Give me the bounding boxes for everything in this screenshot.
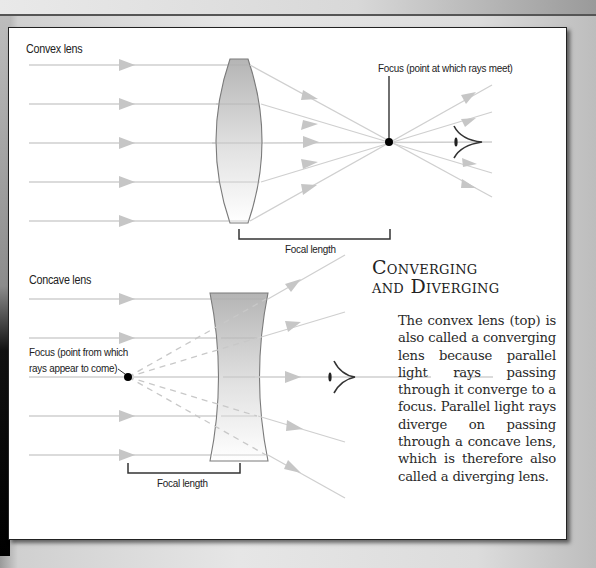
convex-focus-dot xyxy=(385,138,393,146)
sidebar-body-text: The convex lens (top) is also called a c… xyxy=(398,312,556,485)
concave-lens-title: Concave lens xyxy=(29,273,91,287)
convex-lens-title: Convex lens xyxy=(26,42,82,56)
concave-refracted-arrows xyxy=(284,279,303,473)
convex-incoming-arrows xyxy=(119,59,135,227)
convex-focal-length-bracket xyxy=(239,229,390,239)
concave-focal-length-label: Focal length xyxy=(157,477,208,489)
concave-focus-label: Focus (point from which rays appear to c… xyxy=(29,344,128,376)
concave-focal-length-bracket xyxy=(128,463,240,473)
convex-focus-label: Focus (point at which rays meet) xyxy=(378,62,513,74)
convex-focal-length-label: Focal length xyxy=(285,243,336,255)
page-top-band xyxy=(0,0,596,16)
convex-lens xyxy=(216,59,262,223)
sidebar-title-line2: and Diverging xyxy=(372,277,562,296)
sidebar-title: Converging and Diverging xyxy=(372,258,562,296)
